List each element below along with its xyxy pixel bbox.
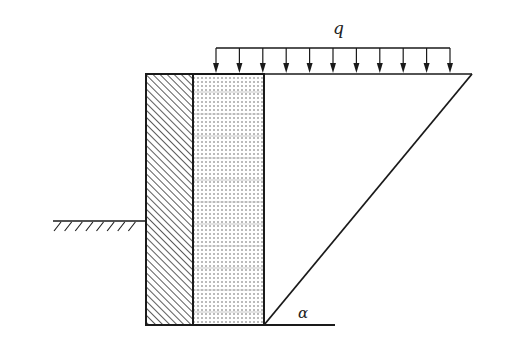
- retaining-wall: [146, 74, 193, 325]
- ground-surface: [53, 221, 146, 231]
- distributed-load-q: [213, 48, 453, 73]
- backfill-soil: [193, 74, 264, 325]
- retaining-wall-diagram: q α: [0, 0, 507, 345]
- diagram-canvas: q α: [0, 0, 507, 345]
- angle-label-alpha: α: [298, 304, 308, 322]
- load-label-q: q: [333, 18, 344, 38]
- slip-surface-line: [264, 74, 472, 325]
